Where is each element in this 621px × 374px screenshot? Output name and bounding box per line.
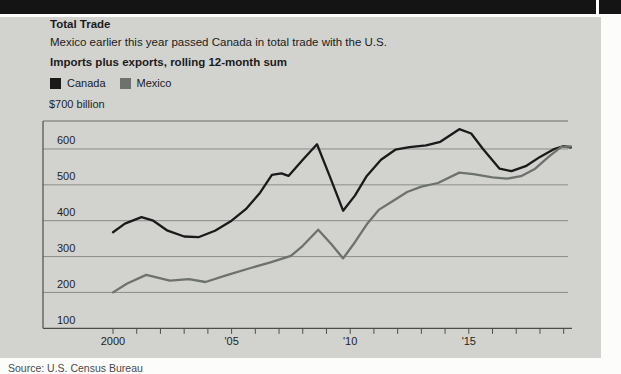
legend-swatch-mexico	[120, 78, 131, 89]
legend-entry-canada: Canada	[50, 77, 106, 89]
legend-swatch-canada	[50, 78, 61, 89]
x-tick-label: 2000	[101, 335, 125, 347]
x-tick-label: '15	[462, 335, 476, 347]
chart-title: Total Trade	[50, 18, 111, 30]
chart-legend: Canada Mexico	[50, 77, 179, 89]
y-axis-label: 500	[57, 170, 75, 182]
x-tick-label: '10	[343, 335, 357, 347]
source-note: Source: U.S. Census Bureau	[8, 362, 143, 374]
y-axis-label: 100	[57, 314, 75, 326]
chart-subtitle: Mexico earlier this year passed Canada i…	[50, 36, 387, 48]
y-axis-label: 300	[57, 242, 75, 254]
x-tick-label: '05	[224, 335, 238, 347]
y-axis-label: 600	[57, 134, 75, 146]
legend-label-mexico: Mexico	[137, 77, 172, 89]
chart-caption: Imports plus exports, rolling 12-month s…	[50, 56, 287, 68]
y-axis-label: 200	[57, 278, 75, 290]
legend-label-canada: Canada	[67, 77, 106, 89]
legend-entry-mexico: Mexico	[120, 77, 172, 89]
y-axis-unit-label: $700 billion	[49, 98, 105, 110]
y-axis-label: 400	[57, 206, 75, 218]
